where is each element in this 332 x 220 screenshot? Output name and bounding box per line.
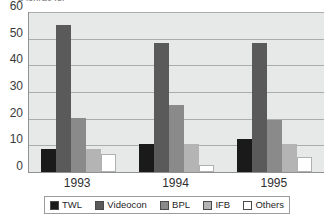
y-tick-label: 40 xyxy=(10,53,23,65)
legend-item-ifb[interactable]: IFB xyxy=(203,200,230,210)
legend-swatch-icon xyxy=(50,201,59,210)
bar-others-1993 xyxy=(101,154,116,172)
y-tick-label: 30 xyxy=(10,80,23,92)
x-axis: 199319941995 xyxy=(28,176,324,192)
y-tick-label: 50 xyxy=(10,27,23,39)
legend-item-twl[interactable]: TWL xyxy=(50,200,82,210)
legend-label: Videocon xyxy=(107,200,146,210)
bar-twl-1995 xyxy=(237,139,252,172)
chart-legend: TWLVideoconBPLIFBOthers xyxy=(44,196,290,214)
bar-bpl-1995 xyxy=(267,120,282,172)
bar-others-1994 xyxy=(199,165,214,172)
bar-chart: a lonrac fei 0102030405060 199319941995 … xyxy=(0,0,332,220)
bar-ifb-1995 xyxy=(282,144,297,172)
x-tick-label-1995: 1995 xyxy=(225,176,323,190)
plot-area xyxy=(28,12,324,173)
legend-item-bpl[interactable]: BPL xyxy=(160,200,190,210)
bar-group-1993 xyxy=(29,12,127,172)
legend-item-videocon[interactable]: Videocon xyxy=(95,200,146,210)
bar-group-1994 xyxy=(127,12,225,172)
legend-swatch-icon xyxy=(160,201,169,210)
x-tick-label-1993: 1993 xyxy=(28,176,126,190)
legend-item-others[interactable]: Others xyxy=(243,200,284,210)
bar-ifb-1993 xyxy=(86,149,101,172)
clipped-title-text: a lonrac fei xyxy=(18,0,138,3)
bar-videocon-1994 xyxy=(154,43,169,172)
y-axis: 0102030405060 xyxy=(0,6,28,178)
bar-others-1995 xyxy=(297,157,312,172)
bar-ifb-1994 xyxy=(184,144,199,172)
legend-label: IFB xyxy=(215,200,230,210)
bar-videocon-1993 xyxy=(56,25,71,172)
legend-swatch-icon xyxy=(243,201,252,210)
bar-bpl-1994 xyxy=(169,105,184,172)
bar-group-1995 xyxy=(226,12,324,172)
y-tick-label: 0 xyxy=(16,160,23,172)
legend-swatch-icon xyxy=(203,201,212,210)
legend-swatch-icon xyxy=(95,201,104,210)
clipped-title: a lonrac fei xyxy=(18,0,138,3)
y-tick-label: 10 xyxy=(10,133,23,145)
legend-label: BPL xyxy=(172,200,190,210)
y-tick-label: 60 xyxy=(10,0,23,12)
y-tick-label: 20 xyxy=(10,107,23,119)
x-tick-label-1994: 1994 xyxy=(126,176,224,190)
bar-twl-1993 xyxy=(41,149,56,172)
bar-videocon-1995 xyxy=(252,43,267,172)
legend-label: Others xyxy=(255,200,284,210)
legend-label: TWL xyxy=(62,200,82,210)
bar-twl-1994 xyxy=(139,144,154,172)
bar-bpl-1993 xyxy=(71,118,86,172)
